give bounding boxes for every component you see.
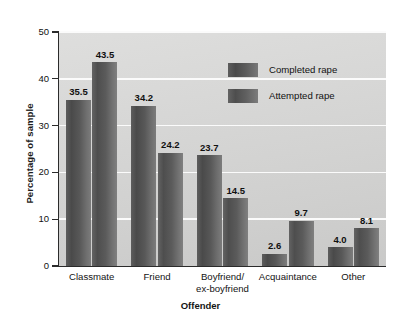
legend-label: Attempted rape xyxy=(269,89,335,103)
bar-value-label: 34.2 xyxy=(124,93,164,103)
x-axis-category-label: Other xyxy=(308,271,398,283)
y-tick-label: 20 xyxy=(9,167,49,177)
x-axis-category-label-line: Other xyxy=(308,271,398,283)
bar xyxy=(354,228,379,266)
y-axis-title: Percentage of sample xyxy=(24,69,35,239)
y-tick-label: 0 xyxy=(9,261,49,271)
bar-value-label: 14.5 xyxy=(216,186,256,196)
bar-value-label: 43.5 xyxy=(85,50,125,60)
bar xyxy=(223,198,248,266)
y-tick-mark xyxy=(52,31,59,32)
y-tick-label: 30 xyxy=(9,121,49,131)
bar xyxy=(197,155,222,266)
y-tick-mark xyxy=(52,172,59,173)
legend-swatch xyxy=(228,89,258,103)
y-tick-label: 50 xyxy=(9,27,49,37)
bar-value-label: 24.2 xyxy=(150,140,190,150)
y-tick-label: 10 xyxy=(9,214,49,224)
y-tick-mark xyxy=(52,78,59,79)
bar-value-label: 8.1 xyxy=(347,216,387,226)
bar xyxy=(328,247,353,266)
bar-chart: Percentage of sample 50403020100 35.543.… xyxy=(0,0,401,319)
bar xyxy=(289,221,314,266)
bar xyxy=(158,153,183,266)
bar-value-label: 23.7 xyxy=(189,143,229,153)
y-tick-label: 40 xyxy=(9,74,49,84)
gridline xyxy=(59,31,386,33)
x-axis-category-label-line: ex-boyfriend xyxy=(178,283,268,295)
y-tick-mark xyxy=(52,265,59,266)
legend-label: Completed rape xyxy=(269,63,337,77)
bar xyxy=(66,100,91,266)
x-axis-title: Offender xyxy=(0,300,401,311)
bar-value-label: 9.7 xyxy=(281,208,321,218)
bar xyxy=(92,62,117,266)
y-axis-line xyxy=(58,31,59,267)
y-tick-mark xyxy=(52,219,59,220)
legend-swatch xyxy=(228,63,258,77)
bar xyxy=(131,106,156,266)
bar xyxy=(262,254,287,266)
y-tick-mark xyxy=(52,125,59,126)
